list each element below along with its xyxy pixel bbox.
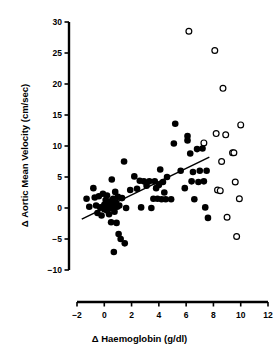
open-data-point bbox=[238, 122, 244, 128]
filled-data-point bbox=[134, 185, 141, 192]
filled-data-point bbox=[184, 137, 191, 144]
plot-area: −10−5051015202530 −2024681012 bbox=[0, 0, 279, 353]
scatter-plot-figure: −10−5051015202530 −2024681012 Δ Haemoglo… bbox=[0, 0, 279, 353]
y-axis bbox=[65, 22, 70, 270]
filled-data-point bbox=[116, 202, 123, 209]
filled-data-point bbox=[172, 120, 179, 127]
filled-circle-series bbox=[83, 120, 211, 255]
filled-data-point bbox=[90, 185, 97, 192]
filled-data-point bbox=[187, 150, 194, 157]
x-axis-title: Δ Haemoglobin (g/dl) bbox=[0, 333, 279, 344]
y-tick-label: −10 bbox=[38, 266, 62, 275]
filled-data-point bbox=[108, 176, 115, 183]
filled-data-point bbox=[188, 178, 195, 185]
filled-data-point bbox=[86, 203, 93, 210]
filled-data-point bbox=[164, 174, 171, 181]
open-data-point bbox=[217, 188, 223, 194]
x-tick-label: 6 bbox=[172, 311, 200, 320]
filled-data-point bbox=[119, 195, 126, 202]
y-tick-label: 0 bbox=[38, 204, 62, 213]
open-data-point bbox=[186, 28, 192, 34]
filled-data-point bbox=[138, 204, 145, 211]
open-data-point bbox=[212, 48, 218, 54]
open-data-point bbox=[232, 179, 238, 185]
filled-data-point bbox=[191, 196, 198, 203]
filled-data-point bbox=[177, 168, 184, 175]
filled-data-point bbox=[157, 166, 164, 173]
filled-data-point bbox=[127, 187, 134, 194]
open-data-point bbox=[236, 196, 242, 202]
open-data-point bbox=[234, 234, 240, 240]
filled-data-point bbox=[121, 240, 128, 247]
x-tick-label: 4 bbox=[145, 311, 173, 320]
filled-data-point bbox=[203, 168, 210, 175]
filled-data-point bbox=[196, 168, 203, 175]
filled-data-point bbox=[111, 249, 118, 256]
filled-data-point bbox=[121, 158, 128, 165]
x-tick-label: 12 bbox=[254, 311, 279, 320]
y-tick-label: 30 bbox=[38, 18, 62, 27]
x-tick-label: 10 bbox=[227, 311, 255, 320]
filled-data-point bbox=[104, 192, 111, 199]
filled-data-point bbox=[113, 220, 120, 227]
filled-data-point bbox=[148, 205, 155, 212]
filled-data-point bbox=[123, 205, 130, 212]
filled-data-point bbox=[131, 173, 138, 180]
y-tick-label: 15 bbox=[38, 111, 62, 120]
x-tick-label: 2 bbox=[118, 311, 146, 320]
filled-data-point bbox=[199, 145, 206, 152]
x-tick-label: −2 bbox=[63, 311, 91, 320]
open-data-point bbox=[220, 85, 226, 91]
y-tick-label: 10 bbox=[38, 142, 62, 151]
filled-data-point bbox=[168, 196, 175, 203]
filled-data-point bbox=[181, 185, 188, 192]
filled-data-point bbox=[201, 178, 208, 185]
y-tick-label: 25 bbox=[38, 49, 62, 58]
filled-data-point bbox=[205, 215, 212, 222]
y-axis-title: Δ Aortic Mean Velocity (cm/sec) bbox=[19, 36, 30, 276]
open-data-point bbox=[219, 159, 225, 165]
filled-data-point bbox=[83, 195, 90, 202]
open-data-point bbox=[224, 214, 230, 220]
x-tick-label: 0 bbox=[90, 311, 118, 320]
open-data-point bbox=[201, 140, 207, 146]
y-tick-label: −5 bbox=[38, 235, 62, 244]
filled-data-point bbox=[98, 212, 105, 219]
open-data-point bbox=[223, 132, 229, 138]
x-axis bbox=[77, 302, 268, 307]
open-circle-series bbox=[186, 28, 244, 239]
x-tick-label: 8 bbox=[199, 311, 227, 320]
y-tick-label: 5 bbox=[38, 173, 62, 182]
filled-data-point bbox=[171, 140, 178, 147]
y-tick-label: 20 bbox=[38, 80, 62, 89]
open-data-point bbox=[213, 131, 219, 137]
open-data-point bbox=[231, 150, 237, 156]
filled-data-point bbox=[202, 204, 209, 211]
filled-data-point bbox=[190, 169, 197, 176]
filled-data-point bbox=[161, 189, 168, 196]
